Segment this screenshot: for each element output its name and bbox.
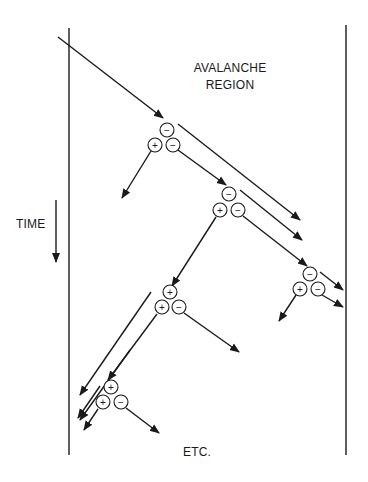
- diagram-drawing: − + − − + − − + − + + − + + −: [0, 0, 368, 482]
- avalanche-label-line2: REGION: [190, 77, 270, 94]
- charge-sign: −: [176, 302, 182, 313]
- charge-sign: +: [159, 302, 165, 313]
- charge-sign: −: [170, 140, 176, 151]
- charge-sign: +: [217, 205, 223, 216]
- hole-path-arrow: [279, 295, 296, 321]
- charge-sign: −: [235, 205, 241, 216]
- avalanche-label-line1: AVALANCHE: [190, 60, 270, 77]
- charge-sign: +: [167, 287, 173, 298]
- charge-sign: +: [108, 382, 114, 393]
- hole-path-arrow: [172, 217, 216, 286]
- charge-sign: −: [164, 125, 170, 136]
- charge-sign: −: [307, 269, 313, 280]
- hole-path-arrow: [80, 292, 151, 395]
- electron-path-arrow: [322, 295, 343, 307]
- electron-path-arrow: [126, 408, 159, 433]
- incoming-electron-arrow: [58, 37, 163, 118]
- charge-sign: +: [297, 284, 303, 295]
- time-label: TIME: [16, 217, 45, 231]
- avalanche-diagram: − + − − + − − + − + + − + + − AVALANCHE …: [0, 0, 368, 482]
- avalanche-region-label: AVALANCHE REGION: [190, 60, 270, 94]
- charge-sign: +: [100, 397, 106, 408]
- charge-sign: −: [226, 189, 232, 200]
- electron-path-arrow: [243, 216, 307, 266]
- etc-label: ETC.: [183, 445, 211, 459]
- electron-path-arrow: [184, 313, 239, 352]
- hole-path-arrow: [122, 151, 151, 198]
- charge-sign: −: [315, 284, 321, 295]
- charge-sign: +: [152, 140, 158, 151]
- charge-sign: −: [118, 397, 124, 408]
